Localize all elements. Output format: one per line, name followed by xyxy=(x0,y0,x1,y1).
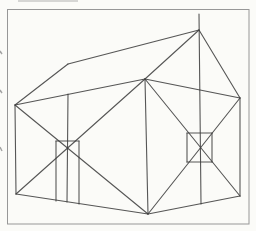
roof-ridge xyxy=(68,30,199,64)
page-edge-tick-1 xyxy=(0,51,2,54)
scanned-figure-page xyxy=(0,0,256,231)
wall-edge-front xyxy=(145,79,148,214)
left-centre-vertical xyxy=(67,94,68,202)
apex-centre-vertical xyxy=(199,14,201,204)
house-perspective-drawing xyxy=(0,0,256,231)
wall-bottom-right xyxy=(148,196,240,214)
wall-top-right xyxy=(145,79,240,98)
scan-artifacts xyxy=(0,1,78,151)
roof-edge-left xyxy=(15,64,68,105)
wall-bottom-left xyxy=(16,194,148,214)
wall-edge-left xyxy=(15,105,16,194)
right-wall-diagonal-a xyxy=(145,79,240,196)
right-wall-diagonal-b xyxy=(148,98,240,214)
house-line-work xyxy=(15,14,240,214)
figure-border-frame xyxy=(8,10,250,225)
left-wall-diagonal-a xyxy=(15,105,148,214)
roof-edge-right xyxy=(199,30,240,98)
page-edge-tick-2 xyxy=(0,90,2,93)
page-edge-tick-3 xyxy=(0,147,2,151)
wall-top-left xyxy=(15,79,145,105)
left-wall-diagonal-b xyxy=(16,79,145,194)
